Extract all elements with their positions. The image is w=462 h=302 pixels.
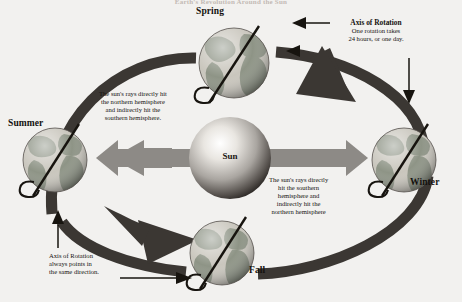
note-north-line2: the northern hemisphere [101, 98, 165, 105]
note-axis-of-rotation-top: Axis of Rotation One rotation takes 24 h… [348, 18, 403, 43]
note-south-line1: The sun's rays directly [269, 176, 328, 183]
note-axis-top-line1: One rotation takes [352, 27, 400, 34]
season-label-fall: Fall [249, 265, 265, 275]
note-north-line3: and indirectly hit the [106, 106, 161, 113]
note-north-line4: southern hemisphere. [105, 114, 161, 121]
globe-fall [187, 217, 254, 290]
note-south-line3: hemisphere and [278, 192, 320, 199]
note-axis-top-heading: Axis of Rotation [348, 18, 403, 27]
globe-spring [195, 26, 269, 103]
note-northern-hemisphere: The sun's rays directly hit the northern… [99, 90, 167, 122]
note-south-line5: northern hemisphere [271, 208, 325, 215]
sun-label: Sun [198, 151, 262, 161]
note-axis-of-rotation-bottom: Axis of Rotation always points in the sa… [49, 252, 99, 276]
season-label-spring: Spring [196, 6, 224, 16]
note-north-line1: The sun's rays directly hit [99, 90, 167, 97]
pointer-arrow-axis-top [292, 17, 330, 29]
note-axis-bottom-line2: always points in [49, 260, 92, 267]
pointer-arrow-vertical [403, 58, 415, 104]
globe-summer [20, 124, 87, 197]
season-label-summer: Summer [8, 118, 43, 128]
note-south-line4: indirectly hit the [277, 200, 321, 207]
note-axis-top-line2: 24 hours, or one day. [348, 35, 403, 42]
note-axis-bottom-line3: the same direction. [49, 268, 99, 275]
note-axis-bottom-line1: Axis of Rotation [49, 252, 93, 259]
diagram-canvas: Earth's Revolution Around the Sun [0, 0, 462, 302]
note-southern-hemisphere: The sun's rays directly hit the southern… [269, 176, 328, 216]
season-label-winter: Winter [410, 177, 439, 187]
note-south-line2: hit the southern [278, 184, 319, 191]
